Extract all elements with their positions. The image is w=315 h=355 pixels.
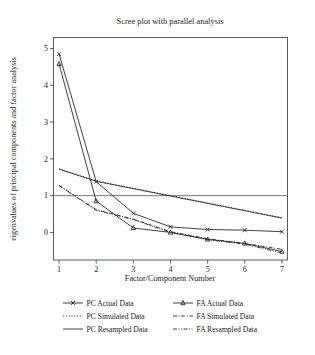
x-tick-label: 6 (243, 265, 247, 274)
y-tick-label: 5 (44, 44, 48, 53)
x-axis-label: Factor/Component Number (125, 274, 216, 283)
scree-plot-figure: Scree plot with parallel analysis eigenv… (0, 0, 315, 355)
legend-item-pc-simulated-data[interactable]: PC Simulated Data (63, 312, 145, 321)
series-fa-simulated-data (59, 185, 282, 249)
legend-item-fa-simulated-data[interactable]: FA Simulated Data (173, 312, 255, 321)
legend-item-pc-actual-data[interactable]: PC Actual Data (63, 299, 134, 308)
series-line (59, 185, 282, 249)
legend-item-pc-resampled-data[interactable]: PC Resampled Data (63, 325, 148, 334)
series-line (59, 54, 282, 232)
x-tick-label: 4 (169, 265, 173, 274)
legend-label: PC Resampled Data (87, 325, 149, 334)
series-pc-actual-data (57, 52, 284, 234)
data-series-layer (57, 52, 284, 253)
legend-label: PC Actual Data (87, 299, 135, 308)
x-tick-label: 3 (131, 265, 135, 274)
y-axis-ticks: 012345 (44, 44, 54, 237)
chart-canvas: Scree plot with parallel analysis eigenv… (0, 0, 315, 355)
series-line (59, 64, 282, 252)
series-fa-actual-data (57, 62, 284, 254)
legend-item-fa-actual-data[interactable]: FA Actual Data (173, 299, 244, 308)
y-tick-label: 4 (44, 81, 48, 90)
y-tick-label: 2 (44, 155, 48, 164)
x-tick-label: 1 (57, 265, 61, 274)
y-tick-label: 0 (44, 228, 48, 237)
legend-label: FA Simulated Data (197, 312, 255, 321)
x-tick-label: 5 (206, 265, 210, 274)
series-line (59, 169, 282, 218)
y-tick-label: 1 (44, 191, 48, 200)
y-tick-label: 3 (44, 118, 48, 127)
legend-label: FA Actual Data (197, 299, 244, 308)
legend-label: FA Resampled Data (197, 325, 258, 334)
y-axis-label: eigenvalues of principal components and … (9, 57, 18, 241)
marker-x (131, 211, 135, 215)
page-title: Scree plot with parallel analysis (117, 17, 224, 26)
x-axis-ticks: 1234567 (57, 260, 284, 274)
x-tick-label: 7 (280, 265, 284, 274)
legend-item-fa-resampled-data[interactable]: FA Resampled Data (173, 325, 258, 334)
x-tick-label: 2 (94, 265, 98, 274)
series-pc-simulated-data (59, 169, 282, 218)
legend-label: PC Simulated Data (87, 312, 146, 321)
chart-legend: PC Actual DataPC Simulated DataPC Resamp… (63, 299, 258, 334)
